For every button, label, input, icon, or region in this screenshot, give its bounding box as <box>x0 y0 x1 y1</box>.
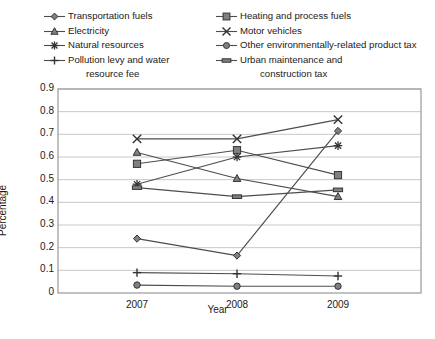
legend-label-continuation: resource fee <box>42 67 214 82</box>
legend-label: Transportation fuels <box>68 9 152 24</box>
legend-label: Natural resources <box>68 38 144 53</box>
legend-item-other-product-tax: Other environmentally-related product ta… <box>214 38 432 53</box>
legend-label: Pollution levy and water <box>68 53 169 68</box>
legend-item-transportation-fuels: Transportation fuels <box>42 9 214 24</box>
legend-item-natural-resources: Natural resources <box>42 38 214 53</box>
legend-item-electricity: Electricity <box>42 24 214 39</box>
diamond-marker-icon <box>42 9 68 24</box>
legend-item-pollution-levy: Pollution levy and water <box>42 53 214 68</box>
legend-label: Other environmentally-related product ta… <box>240 38 417 53</box>
star-marker-icon <box>42 38 68 53</box>
plot-canvas <box>0 86 435 311</box>
triangle-marker-icon <box>42 24 68 39</box>
legend-item-motor-vehicles: Motor vehicles <box>214 24 432 39</box>
plot-area: Percentage 00.10.20.30.40.50.60.70.80.9 … <box>0 86 435 339</box>
circle-marker-icon <box>214 38 240 53</box>
legend-column-right: Heating and process fuels Motor vehicles… <box>214 9 432 81</box>
legend-label: Heating and process fuels <box>240 9 351 24</box>
legend-column-left: Transportation fuels Electricity Natural… <box>42 9 214 81</box>
environmental-tax-line-chart: Transportation fuels Electricity Natural… <box>0 0 435 339</box>
legend-label-continuation: construction tax <box>214 67 432 82</box>
legend-item-urban-maintenance: Urban maintenance and <box>214 53 432 68</box>
plus-marker-icon <box>42 53 68 68</box>
chart-legend: Transportation fuels Electricity Natural… <box>42 9 432 81</box>
x-marker-icon <box>214 24 240 39</box>
legend-item-heating-process-fuels: Heating and process fuels <box>214 9 432 24</box>
legend-label: Urban maintenance and <box>240 53 342 68</box>
legend-label: Motor vehicles <box>240 24 302 39</box>
square-marker-icon <box>214 9 240 24</box>
dash-marker-icon <box>214 53 240 68</box>
legend-label: Electricity <box>68 24 109 39</box>
